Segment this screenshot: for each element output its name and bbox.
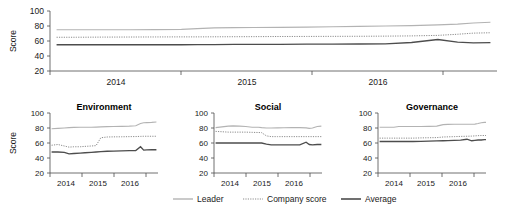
soc-xtick-2014: 2014 [221,179,239,188]
social-title: Social [255,102,282,112]
overall-y-ticks: 100 80 60 40 20 [30,6,50,76]
xtick-2016: 2016 [369,77,388,87]
gov-xtick-2016: 2016 [449,179,467,188]
legend-label-company-score: Company score [267,194,327,204]
panel-governance: Governance 100 80 60 40 20 2014 [359,102,486,188]
ytick-80: 80 [35,21,45,31]
environment-y-ticks: 100 80 60 40 20 [31,109,50,178]
gov-ytick-20: 20 [363,169,372,178]
ytick-20: 20 [35,66,45,76]
overall-leader-line [57,22,491,30]
environment-leader-line [52,122,157,129]
soc-ytick-100: 100 [195,109,209,118]
legend-label-leader: Leader [197,194,224,204]
gov-xtick-2014: 2014 [385,179,403,188]
gov-ytick-40: 40 [363,154,372,163]
environment-title: Environment [76,102,131,112]
esg-score-figure: 100 80 60 40 20 Score 2014 2015 2016 [0,0,506,214]
governance-series [380,122,486,141]
social-y-ticks: 100 80 60 40 20 [195,109,214,178]
social-company-line [216,131,322,136]
governance-average-line [380,139,486,141]
soc-xtick-2015: 2015 [253,179,271,188]
gov-ytick-60: 60 [363,139,372,148]
panel-social: Social 100 80 60 40 20 2014 [195,102,322,188]
soc-ytick-40: 40 [199,154,208,163]
ytick-100: 100 [30,6,44,16]
overall-company-line [57,33,491,38]
overall-x-ticks: 2014 2015 2016 [50,71,443,87]
governance-y-ticks: 100 80 60 40 20 [359,109,378,178]
gov-ytick-100: 100 [359,109,373,118]
soc-ytick-80: 80 [199,124,208,133]
env-ytick-20: 20 [35,169,44,178]
overall-y-axis-title: Score [8,30,18,52]
chart-svg: 100 80 60 40 20 Score 2014 2015 2016 [0,0,506,214]
env-xtick-2015: 2015 [89,179,107,188]
social-leader-line [216,126,322,128]
social-average-line [216,142,322,145]
governance-company-line [380,136,486,139]
panel-environment: Environment 100 80 60 40 20 Score [8,102,158,188]
gov-xtick-2015: 2015 [417,179,435,188]
gov-ytick-80: 80 [363,124,372,133]
governance-x-ticks: 2014 2015 2016 [378,173,474,188]
governance-title: Governance [406,102,458,112]
social-x-ticks: 2014 2015 2016 [214,173,310,188]
xtick-2014: 2014 [107,77,126,87]
social-series [216,126,322,145]
env-xtick-2016: 2016 [121,179,139,188]
env-ytick-80: 80 [35,124,44,133]
xtick-2015: 2015 [238,77,257,87]
environment-y-axis-title: Score [8,132,18,154]
environment-series [52,122,157,154]
legend-label-average: Average [365,194,397,204]
soc-ytick-20: 20 [199,169,208,178]
chart-legend: Leader Company score Average [173,194,397,204]
env-ytick-60: 60 [35,139,44,148]
env-xtick-2014: 2014 [57,179,75,188]
env-ytick-40: 40 [35,154,44,163]
governance-leader-line [380,122,486,127]
soc-xtick-2016: 2016 [285,179,303,188]
env-ytick-100: 100 [31,109,45,118]
soc-ytick-60: 60 [199,139,208,148]
overall-average-line [57,40,491,45]
panel-overall: 100 80 60 40 20 Score 2014 2015 2016 [8,6,497,87]
ytick-40: 40 [35,51,45,61]
ytick-60: 60 [35,36,45,46]
environment-x-ticks: 2014 2015 2016 [50,173,146,188]
environment-company-line [52,136,157,147]
overall-series [57,22,491,45]
environment-average-line [52,147,157,154]
